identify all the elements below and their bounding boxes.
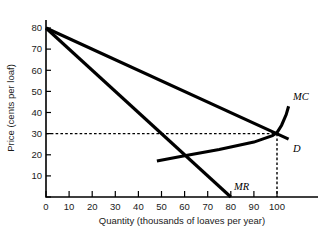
y-tick-labels: 10 20 30 40 50 60 70 80 (31, 22, 42, 181)
x-tick-label: 30 (110, 201, 121, 212)
y-tick-label: 50 (31, 86, 42, 97)
x-tick-label: 60 (179, 201, 190, 212)
x-tick-label: 10 (64, 201, 75, 212)
x-tick-label: 90 (249, 201, 260, 212)
x-tick-label: 80 (226, 201, 237, 212)
demand-curve (46, 28, 289, 139)
y-tick-label: 10 (31, 170, 42, 181)
chart-canvas: 10 20 30 40 50 60 70 80 0 10 20 30 40 50… (0, 0, 325, 243)
monopoly-price-quantity-chart: 10 20 30 40 50 60 70 80 0 10 20 30 40 50… (0, 0, 325, 243)
x-tick-label: 40 (133, 201, 144, 212)
x-axis-title: Quantity (thousands of loaves per year) (99, 215, 265, 226)
y-axis-title: Price (cents per loaf) (5, 64, 16, 152)
y-tick-label: 70 (31, 43, 42, 54)
y-tick-label: 60 (31, 65, 42, 76)
mc-curve-label: MC (292, 91, 310, 102)
d-curve-label: D (292, 143, 301, 154)
x-tick-label: 20 (87, 201, 98, 212)
y-tick-label: 80 (31, 22, 42, 33)
x-tick-label: 100 (269, 201, 285, 212)
marginal-revenue-curve (46, 28, 231, 197)
y-tick-label: 40 (31, 107, 42, 118)
mr-curve-label: MR (233, 181, 250, 192)
x-tick-label: 50 (156, 201, 167, 212)
x-tick-label: 70 (202, 201, 213, 212)
x-tick-labels: 0 10 20 30 40 50 60 70 80 90 100 (43, 201, 285, 212)
y-tick-label: 20 (31, 149, 42, 160)
x-tick-label: 0 (43, 201, 48, 212)
y-tick-label: 30 (31, 128, 42, 139)
